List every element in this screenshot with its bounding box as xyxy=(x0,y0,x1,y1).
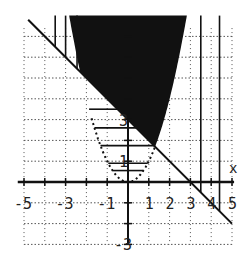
x-tick-label: -5 xyxy=(14,195,32,213)
x-tick-label: -3 xyxy=(56,195,74,213)
y-tick-label: 3 xyxy=(119,112,128,130)
x-axis-label: x xyxy=(229,160,237,176)
region-plot: -5-3-11234513-3 x xyxy=(0,0,249,270)
y-tick-label: -3 xyxy=(114,236,132,254)
x-tick-label: 2 xyxy=(166,195,175,213)
x-tick-label: -1 xyxy=(97,195,115,213)
x-tick-label: 3 xyxy=(186,195,195,213)
x-tick-label: 1 xyxy=(145,195,154,213)
x-tick-label: 5 xyxy=(228,195,237,213)
x-tick-label: 4 xyxy=(207,195,216,213)
y-tick-label: 1 xyxy=(119,153,128,171)
